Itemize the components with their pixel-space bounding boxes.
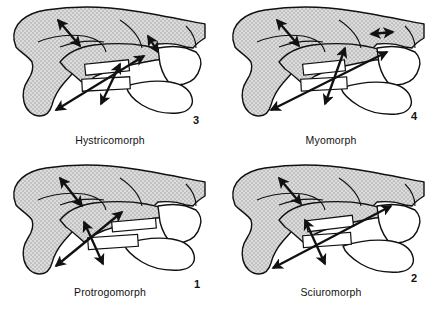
- skull-diagram-sciuromorph: [221, 160, 441, 290]
- skull-diagram-myomorph: [221, 0, 441, 130]
- panel-hystricomorph: 3 Hystricomorph: [0, 0, 220, 160]
- panel-label-myomorph: Myomorph: [221, 134, 441, 146]
- mandible-outline: [343, 240, 413, 272]
- incisor-snout-outline: [377, 47, 420, 87]
- panel-label-sciuromorph: Sciuromorph: [221, 286, 441, 298]
- panel-number-hystricomorph: 3: [193, 114, 199, 126]
- mandible-outline: [341, 82, 411, 114]
- panel-number-sciuromorph: 2: [411, 272, 417, 284]
- skull-diagram-hystricomorph: [0, 0, 220, 130]
- panel-myomorph: 4 Myomorph: [221, 0, 441, 160]
- mandible-outline: [126, 81, 192, 113]
- figure-root: 3 Hystricomorph: [0, 0, 441, 320]
- panel-number-myomorph: 4: [411, 110, 417, 122]
- panel-label-hystricomorph: Hystricomorph: [0, 134, 220, 146]
- panel-label-protrogomorph: Protrogomorph: [0, 286, 220, 298]
- panel-protrogomorph: 1 Protrogomorph: [0, 160, 220, 320]
- skull-diagram-protrogomorph: [0, 160, 220, 290]
- panel-sciuromorph: 2 Sciuromorph: [221, 160, 441, 320]
- incisor-snout-outline: [158, 47, 201, 87]
